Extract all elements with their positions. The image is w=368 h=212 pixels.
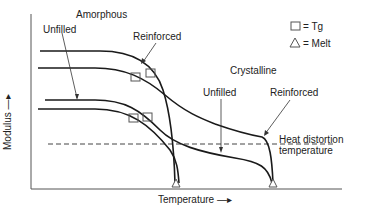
legend-tg-text: = Tg <box>303 21 323 32</box>
y-axis-label: Modulus —▸ <box>2 94 13 150</box>
label-amorphous-unfilled: Unfilled <box>43 24 76 35</box>
arrowhead-icon <box>75 94 79 100</box>
pointer-amorphous-unfilled <box>62 33 77 98</box>
amorphous-unfilled-curve <box>38 68 215 124</box>
label-crystalline: Crystalline <box>230 65 277 76</box>
label-amorphous-reinforced: Reinforced <box>133 31 181 42</box>
label-crystalline-reinforced: Reinforced <box>270 87 318 98</box>
legend-melt-text: = Melt <box>303 38 331 49</box>
melt-triangle-marker <box>269 179 277 187</box>
amorphous-lower-curve <box>38 109 179 183</box>
crystalline-unfilled-curve <box>45 100 272 183</box>
label-heat-distortion-temperature: temperature <box>279 145 333 156</box>
legend-triangle-icon <box>290 38 300 47</box>
crystalline-reinforced-curve <box>215 124 273 183</box>
pointer-amorphous-reinforced <box>143 43 156 62</box>
legend-square-icon <box>291 22 300 30</box>
label-heat-distortion: Heat distortion <box>279 134 343 145</box>
label-crystalline-unfilled: Unfilled <box>203 87 236 98</box>
label-amorphous: Amorphous <box>76 9 127 20</box>
pointer-crystalline-reinforced <box>265 100 290 134</box>
arrowhead-icon <box>219 147 223 153</box>
arrowhead-icon <box>264 130 269 136</box>
x-axis-label: Temperature —▸ <box>158 194 232 205</box>
